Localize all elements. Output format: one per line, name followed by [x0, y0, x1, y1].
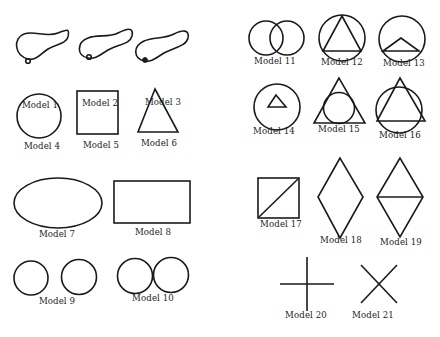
model-16-label: Model 16 — [379, 130, 421, 140]
model-7-label: Model 7 — [39, 229, 75, 239]
figure-canvas — [0, 0, 440, 337]
model-14-label: Model 14 — [253, 126, 295, 136]
model-18-label: Model 18 — [320, 235, 362, 245]
model-12-label: Model 12 — [321, 57, 363, 67]
model-8-shape — [114, 181, 190, 223]
model-5-label: Model 5 — [83, 140, 119, 150]
model-8-label: Model 8 — [135, 227, 171, 237]
model-10-label: Model 10 — [132, 293, 174, 303]
model-1-label: Model 1 — [22, 100, 58, 110]
model-2-label: Model 2 — [82, 98, 118, 108]
model-17-shape — [258, 178, 299, 218]
model-17-label: Model 17 — [260, 219, 302, 229]
model-1-shape — [17, 30, 69, 63]
model-9-label: Model 9 — [39, 296, 75, 306]
model-6-shape — [138, 89, 178, 132]
model-2-shape — [79, 29, 132, 59]
model-19-shape — [377, 158, 423, 237]
model-13-shape — [379, 16, 425, 62]
model-15-shape — [314, 78, 365, 124]
model-15-label: Model 15 — [318, 124, 360, 134]
model-20-shape — [280, 257, 334, 311]
model-4-label: Model 4 — [24, 141, 60, 151]
model-16-shape — [376, 78, 425, 133]
model-19-label: Model 19 — [380, 237, 422, 247]
model-9-shape — [14, 260, 97, 296]
model-14-shape — [254, 84, 300, 130]
model-21-label: Model 21 — [352, 310, 394, 320]
model-10-shape — [118, 258, 189, 294]
model-11-shape — [249, 21, 304, 55]
model-6-label: Model 6 — [141, 138, 177, 148]
model-3-shape — [136, 31, 189, 62]
model-7-shape — [14, 178, 102, 228]
model-18-shape — [318, 158, 363, 238]
model-21-shape — [361, 265, 397, 303]
model-20-label: Model 20 — [285, 310, 327, 320]
model-12-shape — [319, 15, 365, 61]
model-13-label: Model 13 — [383, 58, 425, 68]
model-11-label: Model 11 — [254, 56, 296, 66]
model-3-label: Model 3 — [145, 97, 181, 107]
